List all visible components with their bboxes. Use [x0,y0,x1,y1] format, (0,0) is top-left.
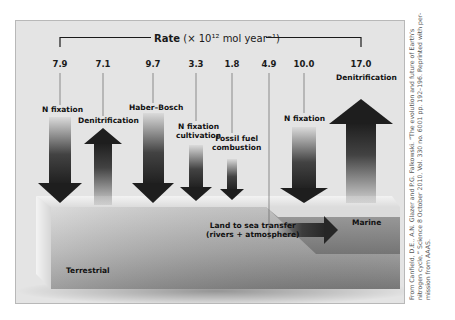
flux-value: 17.0 [341,59,381,69]
flux-value: 7.9 [40,59,80,69]
arrow-n-fixation-terrestrial [38,117,82,203]
arrow-denitrification-terrestrial [84,128,122,205]
rate-title: Rate (× 10¹² mol year⁻¹) [152,33,282,44]
label-haber-bosch: Haber–Bosch [129,103,183,112]
label-marine: Marine [352,218,381,227]
source-caption: From Canfield, D.E., A.N. Glazer and P.G… [408,10,452,300]
flux-value: 4.9 [249,59,289,69]
flux-value: 10.0 [284,59,324,69]
flux-value: 3.3 [176,59,216,69]
label-denitrification-terrestrial: Denitrification [78,116,139,125]
flux-value: 9.7 [133,59,173,69]
label-n-fixation-marine: N fixation [284,114,325,123]
block-top-surface [36,196,400,207]
block-left-side [36,196,51,289]
arrow-haber-bosch [132,113,174,203]
arrow-n-fixation-marine [280,127,328,203]
label-fossil-fuel-combustion: Fossil fuel combustion [212,134,261,152]
label-denitrification-marine: Denitrification [336,73,397,82]
label-land-to-sea-transfer: Land to sea transfer (rivers + atmospher… [206,221,299,239]
arrow-fossil-fuel-combustion [220,159,244,200]
arrow-denitrification-marine [329,99,393,203]
flux-value: 1.8 [212,59,252,69]
label-terrestrial: Terrestrial [66,266,110,275]
label-n-fixation-terrestrial: N fixation [42,105,83,114]
arrow-n-fixation-cultivation [180,145,212,201]
flux-value: 7.1 [83,59,123,69]
diagram-panel: Rate (× 10¹² mol year⁻¹) 7.9 7.1 9.7 3.3… [15,20,405,304]
